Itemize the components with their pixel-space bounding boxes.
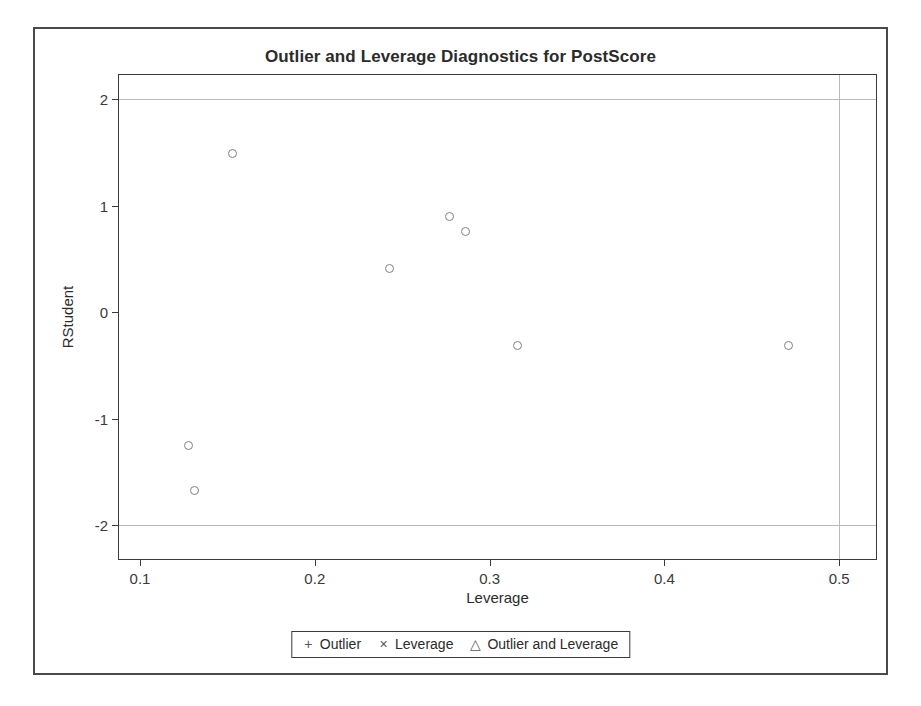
y-axis-tick <box>112 419 119 420</box>
graph-outer-frame: Outlier and Leverage Diagnostics for Pos… <box>33 27 888 675</box>
scatter-point <box>190 486 199 495</box>
figure-root: Outlier and Leverage Diagnostics for Pos… <box>0 0 921 706</box>
y-axis-tick-label: 1 <box>100 197 108 214</box>
scatter-point <box>513 341 522 350</box>
legend-symbol-icon: × <box>378 637 389 651</box>
y-axis-tick <box>112 312 119 313</box>
x-axis-tick <box>140 559 141 566</box>
reference-line-vertical <box>839 75 840 559</box>
x-axis-tick <box>490 559 491 566</box>
plot-area: 210-1-20.10.20.30.40.5 <box>118 74 877 560</box>
legend-symbol-icon: + <box>303 637 314 651</box>
reference-line-horizontal <box>119 525 876 526</box>
legend-label: Outlier and Leverage <box>487 636 618 652</box>
y-axis-tick <box>112 206 119 207</box>
reference-line-horizontal <box>119 99 876 100</box>
chart-legend: +Outlier×Leverage△Outlier and Leverage <box>291 631 630 658</box>
y-axis-tick-label: 2 <box>100 91 108 108</box>
scatter-point <box>461 227 470 236</box>
scatter-point <box>385 264 394 273</box>
legend-symbol-icon: △ <box>470 637 481 651</box>
x-axis-tick <box>315 559 316 566</box>
y-axis-tick <box>112 99 119 100</box>
x-axis-tick-label: 0.5 <box>829 570 850 587</box>
x-axis-title: Leverage <box>118 589 877 606</box>
x-axis-tick-label: 0.1 <box>130 570 151 587</box>
legend-label: Outlier <box>320 636 361 652</box>
x-axis-tick <box>839 559 840 566</box>
legend-entry: +Outlier <box>303 636 361 652</box>
scatter-point <box>228 149 237 158</box>
legend-label: Leverage <box>395 636 453 652</box>
y-axis-tick-label: -2 <box>95 516 108 533</box>
chart-title: Outlier and Leverage Diagnostics for Pos… <box>35 47 886 67</box>
y-axis-tick-label: 0 <box>100 304 108 321</box>
scatter-point <box>184 441 193 450</box>
legend-entry: △Outlier and Leverage <box>470 636 618 652</box>
x-axis-tick-label: 0.3 <box>479 570 500 587</box>
x-axis-tick-label: 0.4 <box>654 570 675 587</box>
y-axis-title: RStudent <box>54 74 80 560</box>
legend-entry: ×Leverage <box>378 636 453 652</box>
x-axis-tick-label: 0.2 <box>304 570 325 587</box>
y-axis-tick <box>112 525 119 526</box>
y-axis-tick-label: -1 <box>95 410 108 427</box>
scatter-point <box>445 212 454 221</box>
scatter-point <box>784 341 793 350</box>
x-axis-tick <box>664 559 665 566</box>
